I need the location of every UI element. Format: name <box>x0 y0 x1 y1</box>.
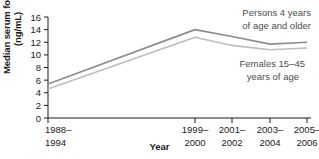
y-tick-label: 4 <box>36 87 41 98</box>
x-tick-label: 1988– <box>45 124 72 135</box>
annotation-females-line2: years of age <box>247 71 299 82</box>
x-tick-label: 2001– <box>219 124 246 135</box>
annotation-persons-line2: of age and older <box>242 20 311 31</box>
x-tick-label: 2003– <box>257 124 284 135</box>
y-tick-label: 10 <box>30 49 41 60</box>
x-axis-title: Year <box>0 141 319 152</box>
y-tick-label: 12 <box>30 37 41 48</box>
y-tick-label: 14 <box>30 24 41 35</box>
y-tick-label: 0 <box>36 113 41 124</box>
y-tick-label: 16 <box>30 12 41 23</box>
y-tick-group: 0246810121416 <box>30 12 48 124</box>
y-tick-label: 8 <box>36 62 41 73</box>
x-tick-label: 1999– <box>182 124 209 135</box>
y-tick-label: 6 <box>36 75 41 86</box>
plot-area: 0246810121416 1988–19941999–20002001–200… <box>0 0 319 159</box>
annotation-females-line1: Females 15–45 <box>240 58 305 69</box>
y-tick-label: 2 <box>36 100 41 111</box>
chart-container: Median serum folate (ng/mL) 024681012141… <box>0 0 319 159</box>
annotation-persons-line1: Persons 4 years <box>242 7 311 18</box>
x-tick-label: 2005– <box>294 124 319 135</box>
